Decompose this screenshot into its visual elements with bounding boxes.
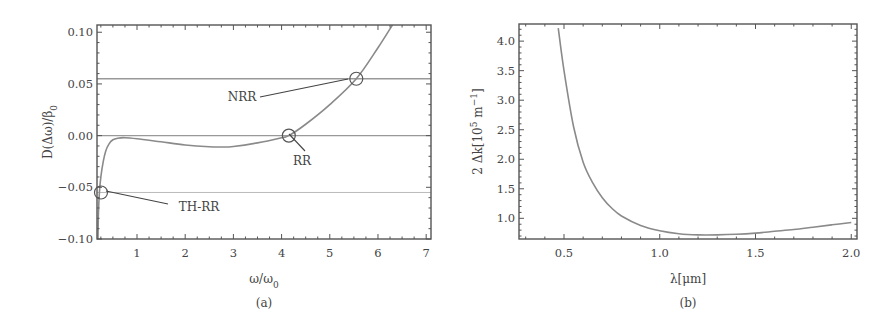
annotation-rr: RR xyxy=(293,154,312,168)
x-tick-label: 7 xyxy=(423,246,430,260)
chart-a: 12345670.100.050.00−0.05−0.10ω/ω0D(Δω)/β… xyxy=(41,25,431,310)
y-tick-label: 1.0 xyxy=(497,211,515,225)
x-tick-label: 2.0 xyxy=(842,246,860,260)
y-tick-label: 2.5 xyxy=(497,123,515,137)
x-tick-label: 5 xyxy=(326,246,333,260)
panel-label: (a) xyxy=(256,296,273,310)
y-axis-label: D(Δω)/β0 xyxy=(41,105,59,159)
annotation-nrr: NRR xyxy=(228,90,258,104)
annotation-th-rr: TH-RR xyxy=(179,200,221,214)
leader-line xyxy=(260,79,348,97)
panel-label: (b) xyxy=(679,296,696,310)
y-tick-label: 4.0 xyxy=(497,34,515,48)
x-tick-label: 2 xyxy=(182,246,189,260)
x-tick-label: 1.0 xyxy=(651,246,669,260)
y-tick-label: 3.5 xyxy=(497,64,515,78)
plot-frame xyxy=(519,24,857,239)
figure-canvas: 12345670.100.050.00−0.05−0.10ω/ω0D(Δω)/β… xyxy=(0,0,894,328)
plot-frame xyxy=(97,25,431,239)
y-tick-label: 0.00 xyxy=(67,129,93,143)
x-tick-label: 3 xyxy=(230,246,237,260)
x-tick-label: 1.5 xyxy=(746,246,764,260)
data-series-line xyxy=(98,25,392,239)
x-tick-label: 1 xyxy=(133,246,140,260)
x-tick-label: 0.5 xyxy=(555,246,573,260)
y-axis-label: 2 Δk[105 m−1] xyxy=(469,88,485,174)
x-axis-label: λ[μm] xyxy=(670,272,706,286)
x-tick-label: 6 xyxy=(374,246,381,260)
leader-line xyxy=(289,134,305,151)
y-tick-label: 0.10 xyxy=(67,25,93,39)
data-series-line xyxy=(558,28,851,235)
y-tick-label: 2.0 xyxy=(497,152,515,166)
x-axis-label: ω/ω0 xyxy=(249,272,279,290)
y-tick-label: −0.05 xyxy=(58,180,93,194)
y-tick-label: 1.5 xyxy=(497,182,515,196)
y-tick-label: −0.10 xyxy=(58,232,93,246)
x-tick-label: 4 xyxy=(278,246,285,260)
chart-b: 0.51.01.52.01.01.52.02.53.03.54.0λ[μm]2 … xyxy=(469,24,860,310)
y-tick-label: 3.0 xyxy=(497,93,515,107)
y-tick-label: 0.05 xyxy=(67,77,93,91)
